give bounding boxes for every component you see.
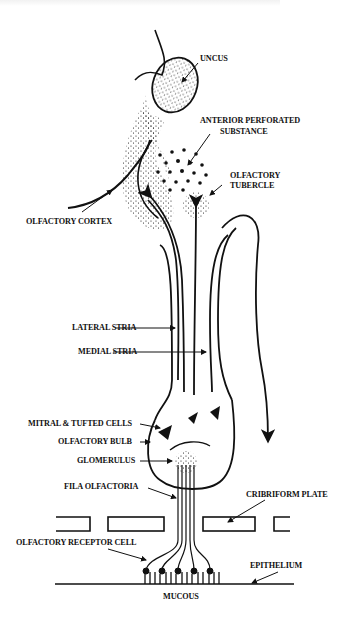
label-lateral-stria: LATERAL STRIA [72,323,136,333]
label-olfactory-bulb: OLFACTORY BULB [58,437,132,447]
label-olfactory-receptor-cell: OLFACTORY RECEPTOR CELL [16,538,136,548]
olfactory-tracts [148,196,268,440]
label-medial-stria: MEDIAL STRIA [78,347,137,357]
label-olfactory-tubercle-2: TUBERCLE [230,181,274,191]
label-glomerulus: GLOMERULUS [77,456,135,466]
label-anterior-perforated-1: ANTERIOR PERFORATED [200,116,300,126]
label-cribriform-plate: CRIBRIFORM PLATE [246,490,328,500]
label-epithelium: EPITHELIUM [250,561,302,571]
label-olfactory-tubercle-1: OLFACTORY [230,171,280,181]
cribriform-plate [56,517,290,531]
label-fila-olfactoria: FILA OLFACTORIA [64,482,138,492]
label-olfactory-cortex: OLFACTORY CORTEX [26,217,112,227]
label-mucous: MUCOUS [163,592,199,602]
olfactory-pathway-diagram [0,0,352,625]
label-anterior-perforated-2: SUBSTANCE [220,127,268,137]
label-mitral-tufted-cells: MITRAL & TUFTED CELLS [28,419,132,429]
olfactory-bulb [148,400,234,489]
label-uncus: UNCUS [200,54,228,64]
